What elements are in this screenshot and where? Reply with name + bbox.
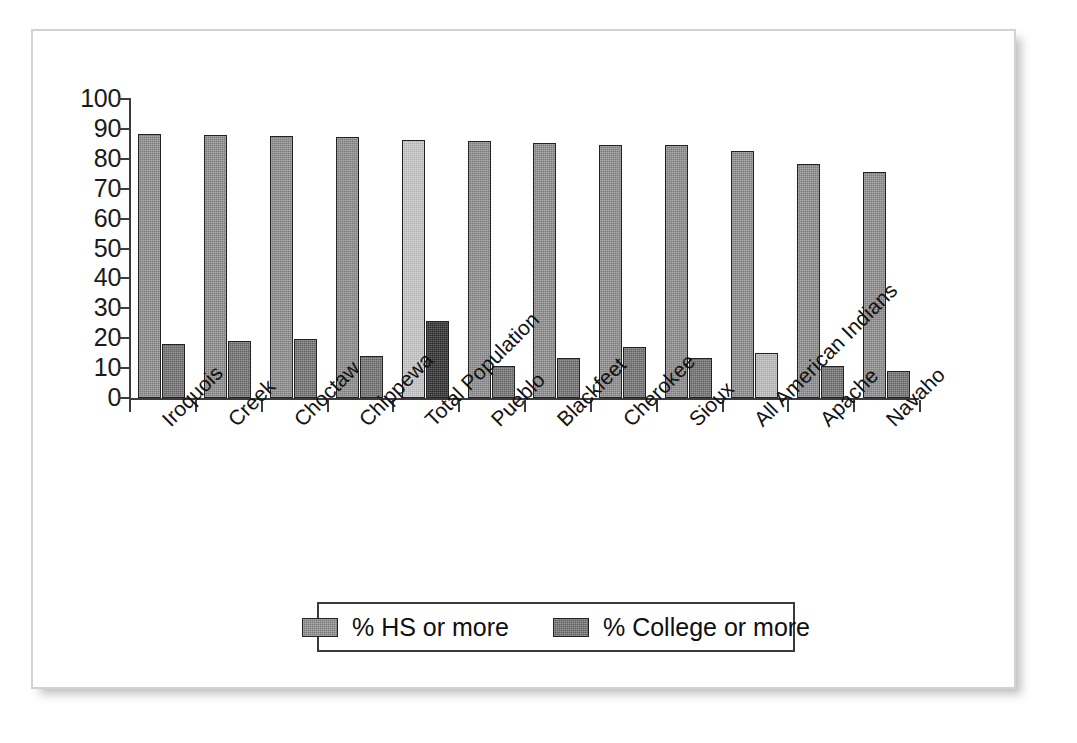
y-axis-tick-label: 80: [75, 146, 121, 171]
bar: [731, 151, 754, 398]
bar: [138, 134, 161, 398]
chart-legend: % HS or more% College or more: [317, 602, 795, 652]
legend-swatch-icon: [302, 618, 338, 637]
chart-frame-plate: 1009080706050403020100 IroquoisCreekChoc…: [31, 29, 1016, 689]
bar: [204, 135, 227, 398]
legend-swatch-icon: [553, 618, 589, 637]
y-axis-tick-label: 100: [75, 86, 121, 111]
legend-entry: % College or more: [553, 615, 810, 640]
y-axis-labels: 1009080706050403020100: [55, 31, 121, 691]
x-axis-tick-mark: [129, 400, 131, 412]
y-axis-line: [129, 98, 131, 400]
y-axis-tick-label: 20: [75, 325, 121, 350]
y-axis-tick-label: 70: [75, 176, 121, 201]
bar: [270, 136, 293, 398]
y-axis-tick-label: 90: [75, 116, 121, 141]
y-axis-tick-label: 0: [75, 385, 121, 410]
grouped-bar-chart: 1009080706050403020100 IroquoisCreekChoc…: [33, 31, 1018, 691]
y-axis-tick-label: 60: [75, 206, 121, 231]
legend-label: % College or more: [603, 615, 810, 640]
y-axis-tick-label: 10: [75, 355, 121, 380]
legend-entry: % HS or more: [302, 615, 509, 640]
legend-label: % HS or more: [352, 615, 509, 640]
y-axis-tick-label: 30: [75, 295, 121, 320]
chart-page: 1009080706050403020100 IroquoisCreekChoc…: [0, 0, 1077, 743]
bar: [533, 143, 556, 398]
y-axis-tick-label: 40: [75, 265, 121, 290]
y-axis-tick-label: 50: [75, 236, 121, 261]
